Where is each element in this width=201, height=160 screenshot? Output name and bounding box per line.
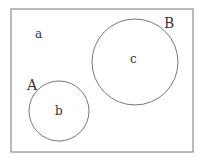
outside-region-label: a [35,27,42,41]
set-b-name: B [164,15,174,31]
set-b-region-label: c [130,52,137,66]
set-a-name: A [26,77,38,93]
set-a-region-label: b [55,104,63,118]
venn-diagram: a A b B c [0,0,201,160]
